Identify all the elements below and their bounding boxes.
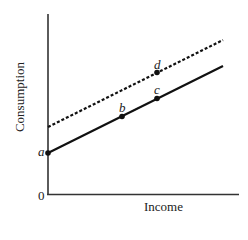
point-a bbox=[45, 150, 51, 156]
x-axis-label: Income bbox=[144, 199, 183, 215]
origin-label: 0 bbox=[38, 188, 45, 204]
point-d-label: d bbox=[154, 57, 161, 73]
y-axis-label: Consumption bbox=[12, 57, 28, 137]
dashed-consumption-line bbox=[48, 40, 223, 127]
point-b-label: b bbox=[119, 100, 126, 116]
point-c-label: c bbox=[154, 82, 160, 98]
point-a-label: a bbox=[38, 144, 45, 160]
solid-consumption-line bbox=[48, 66, 223, 153]
